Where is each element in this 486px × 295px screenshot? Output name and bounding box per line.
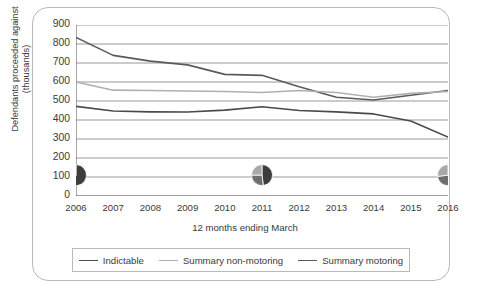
y-tick-label: 500: [40, 94, 70, 105]
chart-legend: IndictableSummary non-motoringSummary mo…: [72, 248, 410, 272]
series-line: [76, 82, 448, 97]
y-tick-label: 100: [40, 170, 70, 181]
y-tick-label: 700: [40, 56, 70, 67]
legend-swatch-icon: [298, 260, 317, 261]
legend-swatch-icon: [79, 260, 98, 261]
x-tick-label: 2010: [205, 202, 245, 213]
y-tick-label: 900: [40, 18, 70, 29]
x-tick-label: 2016: [428, 202, 468, 213]
y-tick-label: 800: [40, 37, 70, 48]
x-tick-label: 2014: [354, 202, 394, 213]
x-tick-label: 2008: [130, 202, 170, 213]
plot-area: [76, 25, 448, 196]
legend-item[interactable]: Summary motoring: [298, 255, 403, 266]
x-tick-label: 2015: [391, 202, 431, 213]
pie-slice: [438, 175, 448, 186]
pie-slice: [437, 165, 448, 177]
pie-slice: [252, 165, 263, 176]
x-tick-label: 2013: [316, 202, 356, 213]
legend-item-label: Summary non-motoring: [183, 255, 283, 266]
pie-slice: [252, 175, 264, 186]
legend-swatch-icon: [159, 260, 178, 261]
pie-marker: [437, 165, 448, 186]
series-line: [76, 106, 448, 137]
legend-item-label: Summary motoring: [322, 255, 403, 266]
y-axis-title: Defendants proceeded against (thousands): [10, 0, 32, 154]
x-tick-label: 2007: [93, 202, 133, 213]
pie-marker: [76, 165, 86, 186]
pie-slice: [262, 165, 273, 186]
x-axis-title: 12 months ending March: [120, 222, 370, 233]
legend-item[interactable]: Summary non-motoring: [159, 255, 283, 266]
legend-item[interactable]: Indictable: [79, 255, 144, 266]
pie-slice: [76, 165, 86, 186]
y-tick-label: 0: [40, 189, 70, 200]
x-tick-label: 2006: [56, 202, 96, 213]
y-tick-label: 200: [40, 151, 70, 162]
y-tick-label: 300: [40, 132, 70, 143]
chart-figure: Defendants proceeded against (thousands)…: [0, 0, 486, 295]
x-tick-label: 2009: [168, 202, 208, 213]
pie-marker: [252, 165, 273, 186]
y-tick-label: 600: [40, 75, 70, 86]
y-tick-label: 400: [40, 113, 70, 124]
x-tick-label: 2012: [279, 202, 319, 213]
legend-item-label: Indictable: [103, 255, 144, 266]
x-tick-label: 2011: [242, 202, 282, 213]
